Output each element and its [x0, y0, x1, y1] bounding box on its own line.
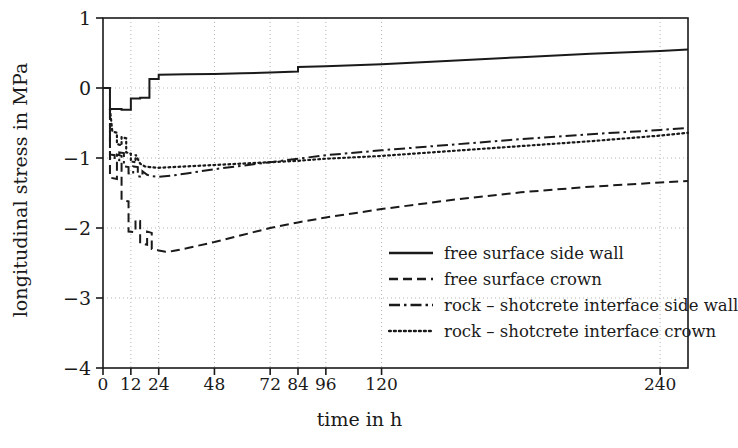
- legend-item: rock – shotcrete interface crown: [388, 318, 688, 344]
- y-tick-label: −2: [57, 217, 91, 239]
- x-tick-label: 24: [148, 374, 170, 394]
- y-tick-label: 0: [57, 77, 91, 99]
- x-tick-label: 120: [365, 374, 397, 394]
- legend-label: rock – shotcrete interface side wall: [444, 296, 738, 315]
- chart-legend: free surface side wallfree surface crown…: [388, 240, 688, 344]
- x-tick-label: 240: [644, 374, 676, 394]
- y-axis-label-container: longitudinal stress in MPa: [0, 0, 40, 380]
- x-tick-label: 0: [98, 374, 109, 394]
- y-tick-label: −1: [57, 147, 91, 169]
- legend-item: free surface crown: [388, 266, 688, 292]
- x-tick-label: 48: [204, 374, 226, 394]
- y-tick-label: −4: [57, 357, 91, 379]
- x-tick-label: 72: [259, 374, 281, 394]
- legend-label: free surface side wall: [444, 244, 624, 263]
- legend-item: free surface side wall: [388, 240, 688, 266]
- x-tick-label: 12: [120, 374, 142, 394]
- legend-line-sample-icon: [388, 324, 434, 338]
- legend-line-sample-icon: [388, 272, 434, 286]
- legend-item: rock – shotcrete interface side wall: [388, 292, 688, 318]
- x-tick-label: 96: [315, 374, 337, 394]
- y-tick-label: −3: [57, 287, 91, 309]
- y-tick-label: 1: [57, 7, 91, 29]
- legend-label: rock – shotcrete interface crown: [444, 322, 716, 341]
- y-axis-label: longitudinal stress in MPa: [9, 63, 31, 318]
- legend-line-sample-icon: [388, 298, 434, 312]
- x-axis-label: time in h: [0, 408, 719, 430]
- x-tick-label: 84: [287, 374, 309, 394]
- legend-line-sample-icon: [388, 246, 434, 260]
- legend-label: free surface crown: [444, 270, 602, 289]
